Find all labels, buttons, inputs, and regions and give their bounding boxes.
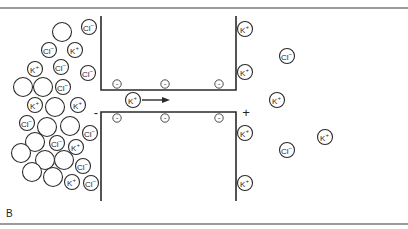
negative-charge: - bbox=[161, 79, 169, 88]
positive-side-sign: + bbox=[242, 105, 250, 120]
svg-text:-: - bbox=[116, 113, 119, 122]
potassium-ion: K+ bbox=[28, 98, 43, 113]
channel-pore: ------K+-+ bbox=[94, 16, 250, 201]
chloride-ion: Cl− bbox=[280, 143, 295, 158]
water-molecule bbox=[53, 23, 72, 42]
svg-text:-: - bbox=[218, 113, 221, 122]
chloride-ion: Cl− bbox=[50, 136, 65, 151]
chloride-ion: Cl− bbox=[81, 66, 96, 81]
water-molecule bbox=[46, 98, 65, 117]
water-molecule bbox=[55, 151, 74, 170]
svg-text:-: - bbox=[164, 79, 167, 88]
chloride-ion: Cl− bbox=[83, 126, 98, 141]
potassium-ion: K+ bbox=[68, 43, 83, 58]
potassium-ion: K+ bbox=[318, 130, 333, 145]
water-molecule bbox=[61, 117, 80, 136]
right-ions: K+K+K+K+Cl−K+Cl−K+ bbox=[238, 22, 333, 191]
chloride-ion: Cl− bbox=[76, 159, 91, 174]
negative-charge: - bbox=[113, 79, 121, 88]
svg-text:-: - bbox=[164, 113, 167, 122]
potassium-ion: K+ bbox=[69, 140, 84, 155]
negative-charge: - bbox=[215, 113, 223, 122]
water-molecule bbox=[23, 163, 42, 182]
chloride-ion: Cl− bbox=[54, 60, 69, 75]
upper-channel-wall bbox=[101, 16, 236, 90]
chloride-ion: Cl− bbox=[280, 49, 295, 64]
svg-text:-: - bbox=[116, 79, 119, 88]
potassium-ion: K+ bbox=[126, 93, 141, 108]
potassium-ion: K+ bbox=[270, 93, 285, 108]
potassium-ion: K+ bbox=[71, 98, 86, 113]
water-molecule bbox=[44, 168, 63, 187]
potassium-ion: K+ bbox=[238, 65, 253, 80]
chloride-ion: Cl− bbox=[20, 116, 35, 131]
panel-label: B bbox=[6, 208, 13, 219]
negative-charge: - bbox=[161, 113, 169, 122]
negative-side-sign: - bbox=[94, 105, 98, 120]
svg-text:-: - bbox=[218, 79, 221, 88]
water-molecule bbox=[34, 78, 53, 97]
lower-channel-wall bbox=[101, 112, 236, 201]
chloride-ion: Cl− bbox=[84, 176, 99, 191]
negative-charge: - bbox=[113, 113, 121, 122]
chloride-ion: Cl− bbox=[42, 43, 57, 58]
potassium-ion: K+ bbox=[238, 126, 253, 141]
arrow-head-icon bbox=[162, 97, 170, 103]
water-molecule bbox=[14, 78, 33, 97]
potassium-ion: K+ bbox=[238, 176, 253, 191]
negative-charge: - bbox=[215, 79, 223, 88]
potassium-ion: K+ bbox=[65, 175, 80, 190]
potassium-ion: K+ bbox=[28, 62, 43, 77]
water-molecule bbox=[12, 144, 31, 163]
ion-channel-diagram: Cl−Cl−K+K+Cl−Cl−Cl−K+K+Cl−Cl−Cl−K+Cl−K+C… bbox=[0, 0, 408, 229]
potassium-ion: K+ bbox=[238, 22, 253, 37]
chloride-ion: Cl− bbox=[82, 20, 97, 35]
chloride-ion: Cl− bbox=[56, 80, 71, 95]
